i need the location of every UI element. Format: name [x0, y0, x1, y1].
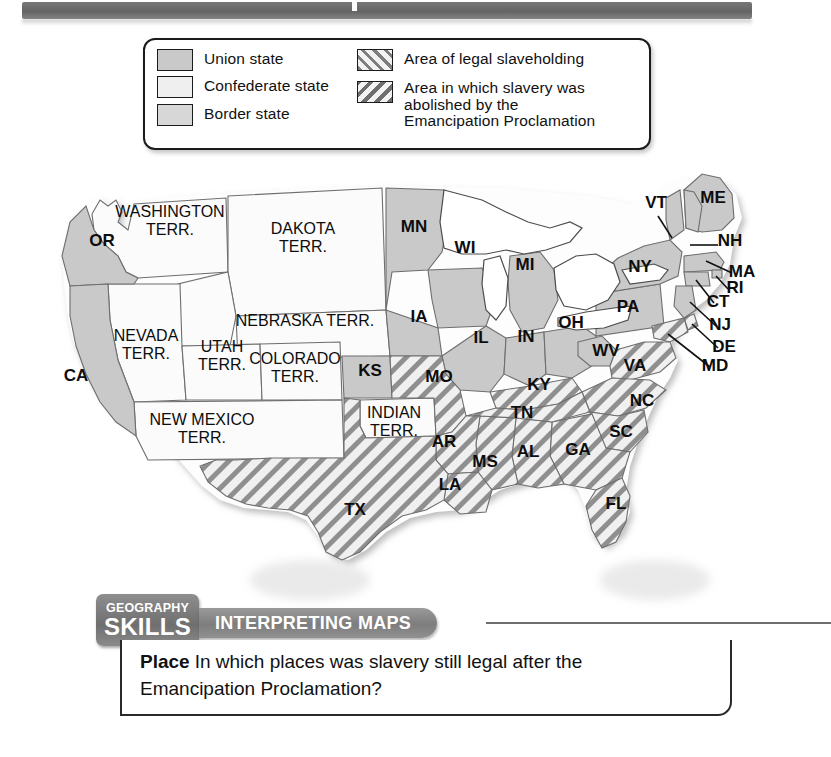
state-label-NC: NC: [630, 391, 655, 410]
caption-box: PlaceIn which places was slavery still l…: [120, 640, 732, 716]
civil-war-map: ORCAMNWIMIIAILINOHKSPANYVTMENHMARICTNJWV…: [30, 160, 760, 575]
territory-label-2: NEBRASKA TERR.: [236, 312, 374, 329]
state-label-VA: VA: [624, 356, 646, 375]
confederate-state-swatch: [157, 76, 193, 98]
state-label-AR: AR: [432, 432, 457, 451]
page-header-notch: [352, 2, 357, 11]
territory-new-mexico: [134, 400, 344, 460]
territory-label-line: TERR.: [198, 356, 246, 373]
territory-label-line: TERR.: [122, 345, 170, 362]
caption-question: In which places was slavery still legal …: [140, 651, 582, 699]
state-label-WI: WI: [455, 238, 476, 257]
state-label-IA: IA: [411, 307, 428, 326]
state-label-NY: NY: [628, 257, 652, 276]
territory-label-4: UTAHTERR.: [198, 338, 246, 373]
legend-item-label: Union state: [204, 48, 284, 68]
state-label-AL: AL: [517, 442, 540, 461]
state-label-DE: DE: [712, 337, 736, 356]
state-label-TN: TN: [511, 403, 534, 422]
state-label-MD: MD: [702, 356, 728, 375]
territory-label-7: INDIANTERR.: [367, 404, 421, 439]
territory-idaho: [178, 272, 236, 346]
badge-skills-label: SKILLS: [104, 615, 191, 638]
legal-slaveholding-hatch-swatch: [357, 49, 393, 71]
state-label-IL: IL: [473, 328, 488, 347]
state-label-CT: CT: [707, 292, 730, 311]
legend-label-line: abolished by the: [404, 96, 519, 113]
territory-label-line: COLORADO: [249, 350, 341, 367]
state-label-LA: LA: [439, 475, 462, 494]
state-label-VT: VT: [645, 193, 667, 212]
territory-label-line: NEVADA: [114, 327, 179, 344]
legend-column-left: Union state Confederate state Border sta…: [157, 48, 367, 130]
map-svg: ORCAMNWIMIIAILINOHKSPANYVTMENHMARICTNJWV…: [30, 160, 760, 575]
legend-item-label: Area of legal slaveholding: [404, 48, 584, 68]
legend-item-union-state: Union state: [157, 48, 367, 71]
legend-item-label: Border state: [204, 103, 290, 123]
territory-label-line: UTAH: [201, 338, 243, 355]
territory-label-line: TERR.: [271, 368, 319, 385]
territory-label-line: INDIAN: [367, 404, 421, 421]
state-label-MI: MI: [516, 255, 535, 274]
legend-label-line: Area in which slavery was: [404, 79, 585, 96]
geography-skills-badge: GEOGRAPHY SKILLS: [96, 594, 199, 646]
caption-lead-label: Place: [140, 651, 190, 672]
state-label-OH: OH: [558, 313, 584, 332]
state-label-KY: KY: [527, 375, 551, 394]
interpreting-maps-label: INTERPRETING MAPS: [215, 613, 411, 634]
territory-label-line: TERR.: [370, 422, 418, 439]
state-label-TX: TX: [344, 500, 366, 519]
state-label-CA: CA: [64, 366, 89, 385]
caption-text: PlaceIn which places was slavery still l…: [140, 648, 700, 702]
state-label-GA: GA: [565, 440, 591, 459]
state-label-NJ: NJ: [709, 315, 731, 334]
legend-item-border-state: Border state: [157, 103, 367, 126]
state-label-SC: SC: [609, 422, 633, 441]
abolished-hatch-swatch: [357, 81, 393, 103]
state-label-WV: WV: [592, 341, 620, 360]
state-label-MS: MS: [472, 452, 498, 471]
legend-item-label: Confederate state: [204, 75, 329, 95]
page-header-shadow: [22, 19, 752, 25]
legend-item-label: Area in which slavery was abolished by t…: [404, 80, 595, 130]
territory-label-line: DAKOTA: [271, 220, 336, 237]
legend-column-right: Area of legal slaveholding Area in which…: [357, 48, 647, 134]
state-label-KS: KS: [358, 361, 382, 380]
legend-item-abolished-by-emancipation: Area in which slavery was abolished by t…: [357, 80, 647, 130]
state-label-MO: MO: [425, 367, 452, 386]
state-label-NH: NH: [718, 231, 743, 250]
territory-label-line: NEBRASKA TERR.: [236, 312, 374, 329]
border-state-swatch: [157, 104, 193, 126]
state-label-FL: FL: [606, 494, 627, 513]
legend-item-confederate-state: Confederate state: [157, 75, 367, 98]
state-label-IN: IN: [518, 327, 535, 346]
interpreting-maps-pill: INTERPRETING MAPS: [199, 608, 437, 638]
map-legend: Union state Confederate state Border sta…: [143, 38, 651, 150]
state-label-MN: MN: [401, 217, 427, 236]
banner-rule: [486, 622, 831, 624]
union-state-swatch: [157, 49, 193, 71]
state-label-ME: ME: [700, 188, 726, 207]
state-label-OR: OR: [89, 231, 115, 250]
territory-label-line: WASHINGTON: [115, 203, 224, 220]
territory-label-line: NEW MEXICO: [150, 411, 255, 428]
state-CT: [684, 272, 710, 286]
state-label-PA: PA: [617, 297, 639, 316]
territory-label-line: TERR.: [178, 429, 226, 446]
geography-skills-badge-inner: GEOGRAPHY SKILLS: [101, 598, 194, 642]
legend-label-line: Emancipation Proclamation: [404, 112, 595, 129]
territory-label-3: NEVADATERR.: [114, 327, 179, 362]
legend-item-legal-slaveholding: Area of legal slaveholding: [357, 48, 647, 71]
state-MA: [684, 252, 724, 272]
territory-label-line: TERR.: [279, 238, 327, 255]
page-header-bar: [22, 2, 752, 19]
territory-label-1: DAKOTATERR.: [271, 220, 336, 255]
territory-label-line: TERR.: [146, 221, 194, 238]
